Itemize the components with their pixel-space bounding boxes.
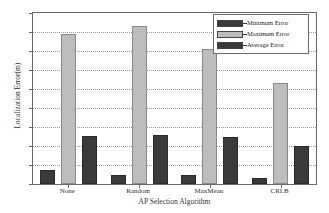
y-axis-tick xyxy=(29,108,33,109)
bar-none-average-error xyxy=(82,136,97,184)
bar-maxmean-minimum-error xyxy=(181,175,196,184)
legend-entry-minimum-error: Minimum Error xyxy=(217,18,305,28)
bar-chart-figure: Localization Error(m) 0123456789 AP Sele… xyxy=(0,0,329,213)
x-axis-tick-label-maxmean: MaxMean xyxy=(179,188,239,195)
x-axis-tick-label-crlb: CRLB xyxy=(250,188,310,195)
legend-swatch-average-error xyxy=(217,42,243,49)
y-axis-tick xyxy=(29,51,33,52)
bar-none-maximum-error xyxy=(61,34,76,184)
bar-random-average-error xyxy=(153,135,168,184)
bar-none-minimum-error xyxy=(40,170,55,184)
bar-maxmean-maximum-error xyxy=(202,49,217,184)
y-axis-tick xyxy=(29,165,33,166)
legend-swatch-minimum-error xyxy=(217,20,243,27)
y-axis-tick xyxy=(29,32,33,33)
x-axis-title: AP Selection Algorithm xyxy=(32,198,317,206)
legend-label-average-error: Average Error xyxy=(247,42,284,49)
legend-entry-maximum-error: Maximum Error xyxy=(217,29,305,39)
bar-random-minimum-error xyxy=(111,175,126,185)
x-axis-tick-label-random: Random xyxy=(108,188,168,195)
legend-swatch-maximum-error xyxy=(217,31,243,38)
bar-crlb-average-error xyxy=(294,146,309,184)
bar-maxmean-average-error xyxy=(223,137,238,184)
y-axis-tick xyxy=(29,127,33,128)
chart-legend: Minimum Error Maximum Error Average Erro… xyxy=(213,14,309,54)
bar-crlb-maximum-error xyxy=(273,83,288,184)
y-axis-tick xyxy=(29,13,33,14)
y-axis-tick xyxy=(29,146,33,147)
y-axis-tick xyxy=(29,184,33,185)
y-axis-tick xyxy=(29,89,33,90)
x-axis-tick-label-none: None xyxy=(37,188,97,195)
bar-random-maximum-error xyxy=(132,26,147,184)
legend-label-maximum-error: Maximum Error xyxy=(247,31,289,38)
legend-entry-average-error: Average Error xyxy=(217,40,305,50)
bar-crlb-minimum-error xyxy=(252,178,267,184)
y-axis-tick xyxy=(29,70,33,71)
legend-label-minimum-error: Minimum Error xyxy=(247,20,288,27)
y-axis-title: Localization Error(m) xyxy=(14,36,22,156)
